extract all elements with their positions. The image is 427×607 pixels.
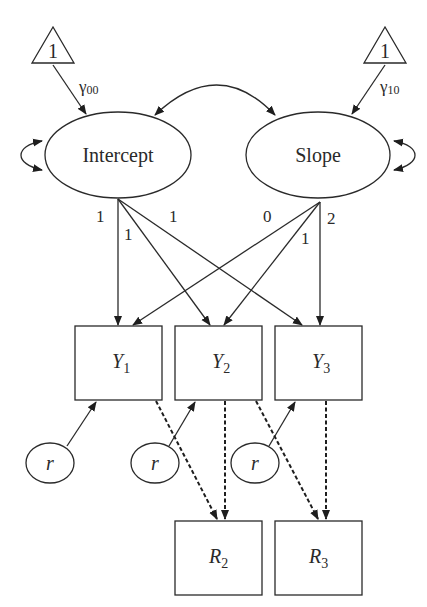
residual-label: r	[251, 452, 259, 474]
latent-slope: Slope	[246, 112, 390, 198]
missing-indicator-r2: R2	[175, 521, 262, 595]
residual-label: r	[46, 452, 54, 474]
loading-slope-y1	[133, 202, 320, 325]
variance-loop-slope	[394, 141, 415, 170]
observed-y1: Y1	[75, 326, 162, 400]
residual-label: r	[151, 452, 159, 474]
loading-intercept-y3	[118, 199, 302, 325]
variance-loop-intercept	[21, 141, 42, 170]
residual-r1: r	[26, 443, 74, 483]
loading-slope-y2	[224, 202, 320, 325]
constant-triangle-intercept: 1	[32, 27, 74, 63]
observed-y2: Y2	[175, 326, 262, 400]
residual-r2: r	[131, 443, 179, 483]
latent-intercept: Intercept	[45, 112, 191, 198]
growth-model-diagram: 1 1 γ00 γ10 Intercept Slope 1 1 1 0 1 2	[0, 0, 427, 607]
latent-label: Slope	[295, 144, 341, 167]
gamma-00-label: γ00	[78, 77, 99, 97]
latent-label: Intercept	[82, 144, 154, 167]
constant-label: 1	[48, 40, 58, 62]
loading-label: 1	[169, 207, 178, 226]
loading-label: 1	[96, 207, 105, 226]
residual-path-y2	[169, 402, 195, 446]
missing-indicator-r3: R3	[275, 521, 362, 595]
constant-triangle-slope: 1	[364, 27, 406, 63]
loading-label: 2	[327, 209, 336, 228]
constant-label: 1	[380, 40, 390, 62]
observed-y3: Y3	[275, 326, 362, 400]
loading-label: 1	[301, 229, 310, 248]
gamma-10-label: γ10	[379, 77, 400, 97]
loading-label: 0	[263, 207, 272, 226]
loading-label: 1	[124, 225, 133, 244]
covariance-arrow	[155, 85, 275, 115]
residual-r3: r	[231, 443, 279, 483]
residual-path-y3	[269, 402, 295, 446]
residual-path-y1	[67, 402, 96, 446]
loading-intercept-y2	[118, 199, 210, 325]
